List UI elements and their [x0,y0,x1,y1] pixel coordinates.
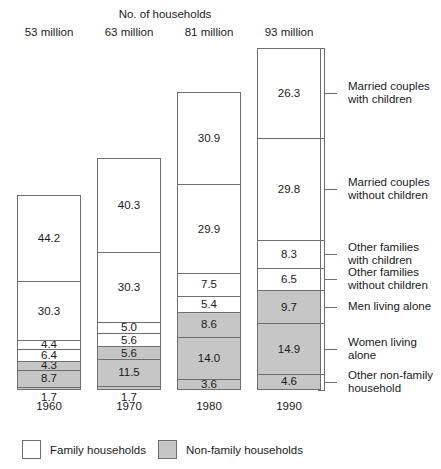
bar-segment-1960-3: 6.4 [17,349,81,361]
segment-value-label: 4.4 [41,340,57,349]
segment-value-label: 29.8 [278,184,300,196]
callout-boundary-tick-4 [318,290,325,291]
segment-value-label: 14.0 [198,353,220,365]
category-label-2: Other families with children [348,241,441,267]
bar-1970: 40.330.35.05.65.611.51.7 [97,158,161,390]
bar-segment-1980-6: 3.6 [177,379,241,390]
bar-segment-1990-6: 4.6 [257,374,321,390]
x-axis-label-1960: 1960 [17,400,81,412]
bar-segment-1960-2: 4.4 [17,340,81,349]
category-label-4: Men living alone [348,300,441,313]
bar-segment-1980-4: 8.6 [177,312,241,338]
stacked-bar-chart: No. of households 53 million44.230.34.46… [0,0,441,469]
legend-item-nonfamily: Non-family households [158,440,303,459]
segment-value-label: 6.5 [281,274,297,286]
segment-value-label: 40.3 [118,200,140,212]
x-axis-label-1980: 1980 [177,400,241,412]
column-header-1980: 81 million [177,26,241,38]
segment-value-label: 5.4 [201,299,217,311]
bar-segment-1990-5: 14.9 [257,323,321,374]
bar-segment-1990-3: 6.5 [257,268,321,290]
segment-value-label: 5.6 [121,335,137,347]
bar-1980: 30.929.97.55.48.614.03.6 [177,92,241,390]
bar-segment-1980-1: 29.9 [177,184,241,273]
segment-value-label: 9.7 [281,302,297,314]
segment-value-label: 30.9 [198,133,220,145]
callout-boundary-tick-5 [318,323,325,324]
bar-segment-1970-2: 5.0 [97,322,161,334]
segment-value-label: 14.9 [278,344,300,356]
callout-boundary-tick-1 [318,138,325,139]
callout-tick-5 [325,349,337,350]
bar-segment-1970-1: 30.3 [97,252,161,322]
chart-title: No. of households [0,8,330,20]
callout-tick-6 [325,382,337,383]
segment-value-label: 5.6 [121,348,137,360]
bar-segment-1960-6: 1.7 [17,387,81,390]
callout-boundary-tick-2 [318,240,325,241]
bar-segment-1980-3: 5.4 [177,296,241,312]
bar-segment-1970-6: 1.7 [97,386,161,390]
category-label-5: Women living alone [348,336,441,362]
bar-segment-1980-0: 30.9 [177,92,241,184]
legend-item-family: Family households [22,440,146,459]
segment-value-label: 30.3 [38,306,60,318]
category-label-3: Other families without children [348,266,441,292]
bar-segment-1970-3: 5.6 [97,333,161,346]
bar-segment-1970-4: 5.6 [97,346,161,359]
segment-value-label: 8.6 [201,319,217,331]
callout-tick-3 [325,279,337,280]
column-header-1960: 53 million [17,26,81,38]
category-label-6: Other non-family household [348,369,441,395]
callout-boundary-tick-0 [318,48,325,49]
x-axis-label-1990: 1990 [257,400,321,412]
column-header-1990: 93 million [257,26,321,38]
bar-segment-1990-4: 9.7 [257,290,321,323]
category-label-0: Married couples with children [348,80,441,106]
bar-segment-1970-0: 40.3 [97,158,161,251]
bar-segment-1990-0: 26.3 [257,48,321,138]
bar-segment-1980-5: 14.0 [177,337,241,379]
segment-value-label: 11.5 [118,367,140,379]
segment-value-label: 3.6 [201,379,217,390]
x-axis-label-1970: 1970 [97,400,161,412]
callout-boundary-tick-3 [318,268,325,269]
bar-segment-1980-2: 7.5 [177,273,241,295]
segment-value-label: 30.3 [118,282,140,294]
callout-axis-line [324,48,325,390]
bar-segment-1990-1: 29.8 [257,138,321,240]
bar-segment-1960-5: 8.7 [17,370,81,387]
segment-value-label: 26.3 [278,88,300,100]
segment-value-label: 4.6 [281,376,297,388]
legend-swatch-family-icon [22,440,41,459]
segment-value-label: 6.4 [41,350,57,361]
bar-1990: 26.329.88.36.59.714.94.6 [257,48,321,390]
callout-boundary-tick-7 [318,390,325,391]
callout-tick-4 [325,307,337,308]
callout-boundary-tick-6 [318,374,325,375]
bar-segment-1990-2: 8.3 [257,240,321,268]
callout-tick-2 [325,254,337,255]
segment-value-label: 8.7 [41,373,57,385]
bar-segment-1960-0: 44.2 [17,195,81,281]
legend-label-nonfamily: Non-family households [186,444,303,456]
bar-segment-1960-1: 30.3 [17,281,81,340]
legend-swatch-nonfamily-icon [158,440,177,459]
column-header-1970: 63 million [97,26,161,38]
callout-tick-0 [325,93,337,94]
segment-value-label: 8.3 [281,249,297,261]
bar-segment-1960-4: 4.3 [17,361,81,369]
segment-value-label: 29.9 [198,224,220,236]
segment-value-label: 5.0 [121,322,137,333]
category-label-1: Married couples without children [348,176,441,202]
callout-tick-1 [325,189,337,190]
bar-1960: 44.230.34.46.44.38.71.7 [17,195,81,390]
segment-value-label: 7.5 [201,279,217,291]
legend-label-family: Family households [50,444,146,456]
bar-segment-1970-5: 11.5 [97,359,161,386]
segment-value-label: 4.3 [41,361,57,369]
segment-value-label: 44.2 [38,233,60,245]
